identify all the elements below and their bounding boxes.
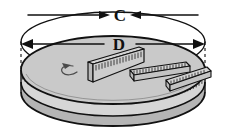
ruler-upright-end-face xyxy=(88,62,93,82)
circumference-dimension-group: C xyxy=(28,6,198,25)
circumference-label: C xyxy=(114,6,126,25)
figure-container: C xyxy=(0,0,226,137)
disc-diagram-svg: C xyxy=(0,0,226,137)
